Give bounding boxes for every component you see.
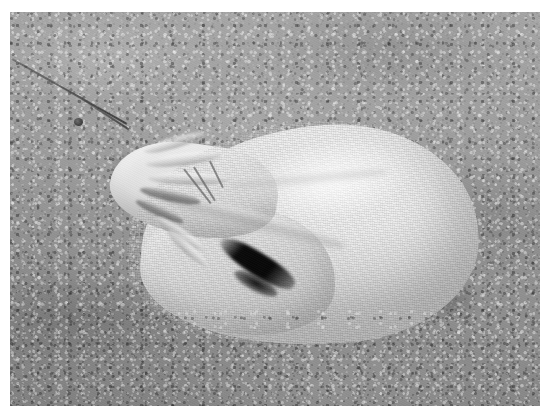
drawstring-cord-knot	[74, 118, 83, 126]
photograph	[10, 12, 540, 406]
bag-body	[106, 116, 478, 344]
photo-frame: A white woven drawstring sack lying on c…	[0, 0, 540, 406]
